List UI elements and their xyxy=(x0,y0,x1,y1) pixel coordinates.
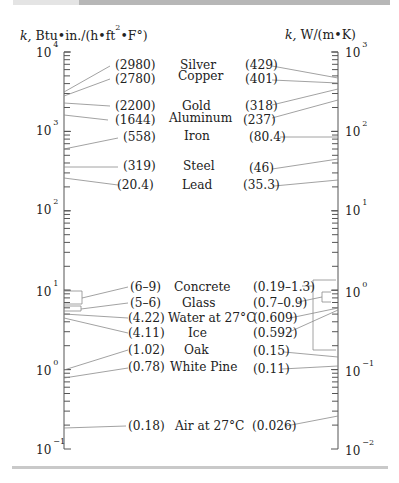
left-value-lead: (20.4) xyxy=(117,179,154,191)
left-value-copper: (2780) xyxy=(115,73,156,85)
right-value-concrete: (0.19–1.3) xyxy=(253,281,315,293)
material-name-copper: Copper xyxy=(178,70,223,82)
material-name-oak: Oak xyxy=(184,344,209,356)
material-name-white-pine: White Pine xyxy=(170,361,237,373)
right-value-aluminum: (237) xyxy=(243,114,276,126)
right-value-ice: (0.592) xyxy=(253,327,297,339)
left-value-iron: (558) xyxy=(123,131,156,143)
material-name-steel: Steel xyxy=(183,160,215,172)
material-name-water: Water at 27°C xyxy=(168,312,256,324)
right-value-copper: (401) xyxy=(245,73,278,85)
bottom-border-bar xyxy=(12,466,388,469)
right-value-steel: (46) xyxy=(249,162,274,174)
material-name-air: Air at 27°C xyxy=(175,420,244,432)
right-value-glass: (0.7–0.9) xyxy=(253,297,307,309)
right-value-air: (0.026) xyxy=(252,420,296,432)
left-decade-label: 101 xyxy=(36,285,58,298)
left-value-aluminum: (1644) xyxy=(115,114,156,126)
material-name-glass: Glass xyxy=(182,297,215,309)
material-name-ice: Ice xyxy=(188,327,207,339)
right-decade-label: 103 xyxy=(345,46,367,59)
left-value-steel: (319) xyxy=(123,160,156,172)
right-decade-label: 10−2 xyxy=(345,444,374,457)
left-decade-label: 10−1 xyxy=(36,443,65,456)
left-decade-label: 102 xyxy=(36,203,58,216)
left-value-water: (4.22) xyxy=(128,312,165,324)
left-value-white-pine: (0.78) xyxy=(128,361,165,373)
left-value-ice: (4.11) xyxy=(128,327,165,339)
left-value-glass: (5–6) xyxy=(130,297,161,309)
material-name-aluminum: Aluminum xyxy=(169,112,232,124)
right-decade-label: 100 xyxy=(345,286,367,299)
material-name-iron: Iron xyxy=(184,130,210,142)
material-name-lead: Lead xyxy=(182,179,212,191)
right-decade-label: 102 xyxy=(345,125,367,138)
right-value-silver: (429) xyxy=(245,59,278,71)
left-value-oak: (1.02) xyxy=(128,344,165,356)
right-value-water: (0.609) xyxy=(253,312,297,324)
right-value-iron: (80.4) xyxy=(249,131,286,143)
right-decade-label: 10−1 xyxy=(345,365,374,378)
material-name-concrete: Concrete xyxy=(174,281,231,293)
right-value-gold: (318) xyxy=(245,100,278,112)
left-value-gold: (2200) xyxy=(115,100,156,112)
right-value-lead: (35.3) xyxy=(243,179,280,191)
left-value-silver: (2980) xyxy=(115,59,156,71)
left-value-concrete: (6–9) xyxy=(130,281,161,293)
left-decade-label: 100 xyxy=(36,364,58,377)
left-decade-label: 103 xyxy=(36,124,58,137)
left-value-air: (0.18) xyxy=(128,420,165,432)
left-decade-label: 104 xyxy=(36,46,58,59)
right-value-oak: (0.15) xyxy=(253,345,290,357)
right-value-white-pine: (0.11) xyxy=(253,363,290,375)
right-decade-label: 101 xyxy=(345,204,367,217)
